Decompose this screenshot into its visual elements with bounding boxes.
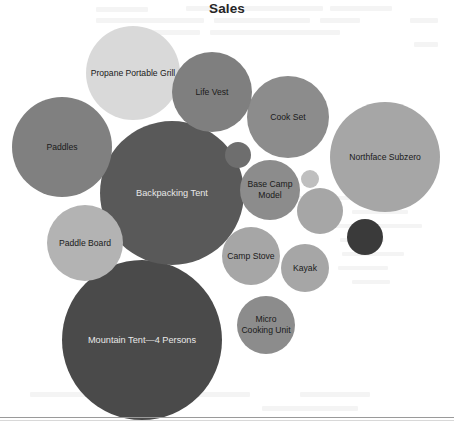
bubble-paddles[interactable]: Paddles [12, 97, 112, 197]
bubble-cook-set[interactable]: Cook Set [247, 76, 329, 158]
bubble-propane-portable-grill[interactable]: Propane Portable Grill [86, 26, 180, 120]
bubble-label: Propane Portable Grill [89, 68, 178, 79]
bubble-northface-subzero[interactable]: Northface Subzero [330, 102, 440, 212]
bubble-base-camp-model[interactable]: Base Camp Model [240, 160, 300, 220]
bubble-label: Micro Cooking Unit [237, 314, 295, 335]
bubble-unlabeled[interactable] [225, 142, 251, 168]
bubble-label: Mountain Tent—4 Persons [86, 335, 198, 346]
bubble-label: Cook Set [268, 112, 307, 123]
bubble-mountain-tent-4-persons[interactable]: Mountain Tent—4 Persons [62, 260, 222, 420]
bubble-unlabeled[interactable] [297, 188, 343, 234]
bubble-label: Base Camp Model [240, 179, 300, 200]
bubble-kayak[interactable]: Kayak [281, 244, 329, 292]
bubble-label: Backpacking Tent [134, 188, 210, 199]
bubble-life-vest[interactable]: Life Vest [172, 52, 252, 132]
bubble-chart-plot-area: Mountain Tent—4 PersonsBackpacking TentN… [0, 0, 454, 418]
bubble-label: Northface Subzero [347, 152, 423, 163]
bubble-unlabeled[interactable] [301, 170, 319, 188]
bubble-label: Camp Stove [225, 251, 276, 262]
bubble-unlabeled[interactable] [347, 219, 383, 255]
page-title: Sales [0, 0, 454, 18]
bubble-camp-stove[interactable]: Camp Stove [222, 227, 280, 285]
bubble-label: Paddle Board [57, 238, 113, 249]
bubble-label: Paddles [44, 142, 79, 153]
bubble-label: Kayak [291, 263, 319, 274]
footer-divider-shadow [0, 420, 454, 421]
footer-divider [0, 417, 454, 418]
bubble-paddle-board[interactable]: Paddle Board [47, 205, 123, 281]
bubble-micro-cooking-unit[interactable]: Micro Cooking Unit [237, 296, 295, 354]
bubble-label: Life Vest [194, 87, 231, 98]
